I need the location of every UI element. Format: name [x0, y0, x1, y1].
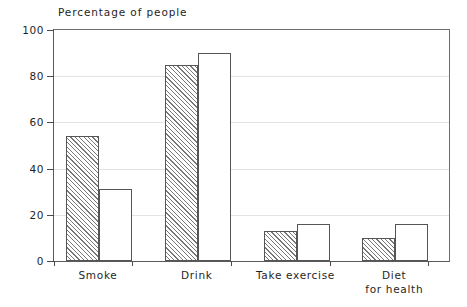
y-axis-label: 40 [29, 163, 44, 175]
x-axis-category-label-line1: Diet [365, 268, 423, 282]
y-axis-label: 60 [29, 116, 44, 128]
x-axis-category-label: Smoke [79, 268, 118, 282]
bar-series-plain-2 [297, 224, 330, 261]
chart-title: Percentage of people [58, 6, 187, 18]
x-axis-category-label: Dietfor health [365, 268, 423, 296]
x-axis-category-label-line1: Smoke [79, 268, 118, 282]
y-axis-label: 80 [29, 70, 44, 82]
x-axis-category-label-line1: Take exercise [256, 268, 335, 282]
y-axis-label: 100 [22, 24, 44, 36]
y-axis-tick [47, 261, 54, 262]
bar-series-hatched-2 [264, 231, 297, 261]
bar-series-hatched-3 [362, 238, 395, 261]
x-axis-tick [54, 261, 55, 266]
bar-series-hatched-0 [66, 136, 99, 261]
y-axis-label: 20 [29, 209, 44, 221]
bar-series-plain-0 [99, 189, 132, 261]
bar-series-plain-1 [198, 53, 231, 261]
gridline [54, 169, 449, 170]
bar-series-plain-3 [395, 224, 428, 261]
x-axis-tick [428, 261, 429, 266]
bar-series-hatched-1 [165, 65, 198, 261]
x-axis-category-label: Take exercise [256, 268, 335, 282]
x-axis-category-label: Drink [181, 268, 213, 282]
gridline [54, 76, 449, 77]
x-axis-tick [330, 261, 331, 266]
x-axis-tick [132, 261, 133, 266]
plot-area: 020406080100 [53, 29, 450, 262]
y-axis-tick [47, 215, 54, 216]
y-axis-tick [47, 76, 54, 77]
x-axis-category-label-line2: for health [365, 282, 423, 296]
y-axis-label: 0 [37, 255, 44, 267]
x-axis-category-label-line1: Drink [181, 268, 213, 282]
bar-chart: Percentage of people 020406080100 SmokeD… [0, 0, 467, 307]
x-axis-tick [231, 261, 232, 266]
y-axis-tick [47, 30, 54, 31]
y-axis-tick [47, 169, 54, 170]
y-axis-tick [47, 122, 54, 123]
gridline [54, 122, 449, 123]
